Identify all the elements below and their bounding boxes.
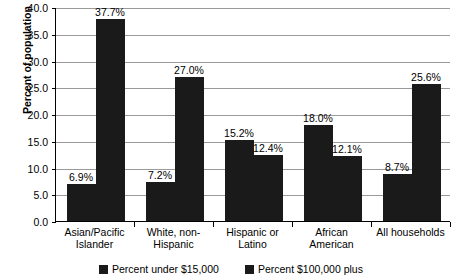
- legend-label: Percent under $15,000: [112, 263, 219, 275]
- x-axis-category-line: All households: [363, 226, 458, 238]
- legend-entry: Percent under $15,000: [99, 263, 219, 275]
- bar-value-label: 7.2%: [138, 170, 182, 181]
- chart-legend: Percent under $15,000Percent $100,000 pl…: [0, 263, 462, 275]
- bar-value-label: 27.0%: [167, 65, 211, 76]
- legend-label: Percent $100,000 plus: [258, 263, 363, 275]
- legend-swatch: [245, 265, 254, 274]
- bar: [383, 174, 412, 221]
- y-axis-tick-label: 35.0: [8, 30, 48, 40]
- bar-value-label: 37.7%: [88, 7, 132, 18]
- y-axis-tick-label: 25.0: [8, 83, 48, 93]
- bar: [412, 84, 441, 221]
- bar-value-label: 15.2%: [217, 128, 261, 139]
- bar-value-label: 8.7%: [375, 162, 419, 173]
- y-axis-tick-mark: [52, 62, 56, 63]
- bar: [96, 19, 125, 221]
- y-axis-tick-mark: [52, 195, 56, 196]
- y-axis-tick-label: 15.0: [8, 137, 48, 147]
- y-axis-tick-label: 20.0: [8, 110, 48, 120]
- bar: [175, 77, 204, 221]
- x-axis-category-labels: Asian/PacificIslanderWhite, non-Hispanic…: [55, 226, 450, 266]
- legend-swatch: [99, 265, 108, 274]
- y-axis-tick-label: 0.0: [8, 217, 48, 227]
- bar-value-label: 25.6%: [404, 72, 448, 83]
- bar: [254, 155, 283, 221]
- y-axis-tick-label: 40.0: [8, 3, 48, 13]
- bar: [67, 184, 96, 221]
- y-axis-tick-mark: [52, 35, 56, 36]
- bar: [333, 156, 362, 221]
- bar: [146, 182, 175, 221]
- y-axis-tick-mark: [52, 8, 56, 9]
- y-axis-tick-label: 5.0: [8, 190, 48, 200]
- plot-area: 6.9%37.7%7.2%27.0%15.2%12.4%18.0%12.1%8.…: [55, 8, 450, 222]
- x-axis-category-label: All households: [363, 226, 458, 238]
- y-axis-tick-mark: [52, 169, 56, 170]
- bar-value-label: 18.0%: [296, 113, 340, 124]
- y-axis-tick-mark: [52, 142, 56, 143]
- y-axis-tick-labels: 40.035.030.025.020.015.010.05.00.0: [6, 0, 48, 273]
- bar-value-label: 6.9%: [59, 172, 103, 183]
- y-axis-tick-mark: [52, 88, 56, 89]
- legend-entry: Percent $100,000 plus: [245, 263, 363, 275]
- bar: [304, 125, 333, 221]
- y-axis-tick-label: 10.0: [8, 164, 48, 174]
- x-axis-category-line: American: [284, 238, 379, 250]
- bar-value-label: 12.1%: [325, 144, 369, 155]
- bar-value-label: 12.4%: [246, 143, 290, 154]
- y-axis-tick-label: 30.0: [8, 57, 48, 67]
- y-axis-tick-mark: [52, 115, 56, 116]
